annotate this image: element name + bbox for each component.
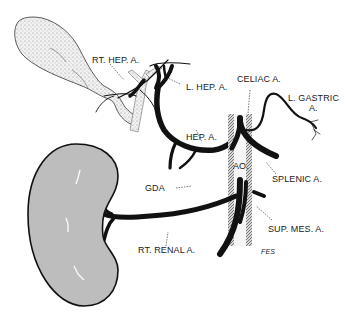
label-rt-hep-a: RT. HEP. A. — [92, 55, 139, 65]
right-renal-artery — [104, 196, 236, 240]
artist-signature: FES — [261, 247, 275, 257]
label-l-hep-a: L. HEP. A. — [186, 82, 227, 92]
label-l-gastric-a-line2: A. — [309, 103, 318, 113]
label-hep-a: HEP. A. — [186, 132, 217, 142]
label-l-gastric-a-line1: L. GASTRIC — [288, 93, 339, 103]
left-hepatic-artery — [150, 63, 190, 88]
right-kidney — [28, 144, 118, 306]
label-rt-renal-a: RT. RENAL A. — [138, 245, 195, 255]
label-gda: GDA — [145, 183, 165, 193]
gallbladder — [15, 17, 140, 126]
label-ao: AO. — [233, 161, 249, 171]
label-sup-mes-a: SUP. MES. A. — [268, 224, 324, 234]
label-splenic-a: SPLENIC A. — [272, 174, 322, 184]
anatomy-diagram — [0, 0, 345, 313]
label-celiac-a: CELIAC A. — [237, 74, 281, 84]
